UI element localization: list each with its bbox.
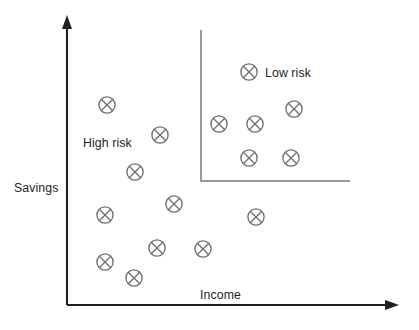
data-point-marker bbox=[149, 240, 165, 256]
data-point-marker bbox=[126, 270, 142, 286]
plot-canvas bbox=[0, 0, 419, 330]
data-point-marker bbox=[241, 64, 257, 80]
y-axis bbox=[62, 15, 72, 305]
decision-boundary-line bbox=[201, 30, 350, 181]
data-point-marker bbox=[247, 116, 263, 132]
data-point-marker bbox=[283, 150, 299, 166]
data-point-marker bbox=[286, 101, 302, 117]
data-point-marker bbox=[166, 196, 182, 212]
x-axis-label: Income bbox=[200, 288, 241, 302]
x-axis-arrowhead bbox=[385, 300, 399, 310]
data-point-marker bbox=[195, 241, 211, 257]
data-point-marker bbox=[211, 116, 227, 132]
y-axis-arrowhead bbox=[62, 15, 72, 29]
data-point-marker bbox=[127, 164, 143, 180]
data-point-marker bbox=[97, 207, 113, 223]
data-point-markers bbox=[97, 64, 302, 286]
y-axis-label: Savings bbox=[14, 181, 58, 195]
scatter-plot-figure: Savings Income High risk Low risk bbox=[0, 0, 419, 330]
data-point-marker bbox=[99, 97, 115, 113]
data-point-marker bbox=[248, 209, 264, 225]
data-point-marker bbox=[152, 127, 168, 143]
data-point-marker bbox=[241, 150, 257, 166]
data-point-marker bbox=[97, 254, 113, 270]
high-risk-cluster-label: High risk bbox=[83, 136, 132, 150]
low-risk-cluster-label: Low risk bbox=[265, 66, 311, 80]
